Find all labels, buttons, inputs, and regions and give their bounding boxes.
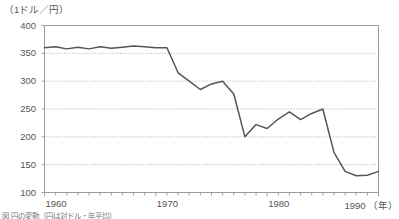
y-axis-tick-label: 250 xyxy=(10,103,36,114)
chart-plot-area xyxy=(0,0,399,219)
chart-figure: （1ドル／円） 100150200250300350400 1960197019… xyxy=(0,0,399,219)
y-axis-tick-label: 150 xyxy=(10,159,36,170)
x-axis-tick-label: 1960 xyxy=(46,198,67,209)
x-axis-tick-label: 1970 xyxy=(157,198,178,209)
data-series-line xyxy=(45,46,379,176)
x-axis-tick-label: 1980 xyxy=(268,198,289,209)
y-axis-tick-label: 350 xyxy=(10,47,36,58)
figure-caption: 図 円の変動（円は対ドル・年平均） xyxy=(2,210,116,219)
y-axis-tick-label: 100 xyxy=(10,187,36,198)
y-axis-tick-label: 300 xyxy=(10,75,36,86)
x-axis-tick-label: 1990 （年） xyxy=(345,198,399,212)
y-axis-tick-label: 400 xyxy=(10,20,36,31)
y-axis-tick-label: 200 xyxy=(10,131,36,142)
